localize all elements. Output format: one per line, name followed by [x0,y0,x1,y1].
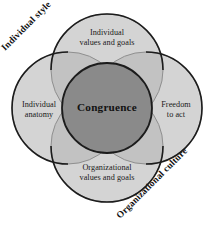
congruence-diagram: Individual values and goals Individual a… [0,0,213,230]
center-circle [62,63,152,153]
venn-diagram-graphic [0,0,213,230]
